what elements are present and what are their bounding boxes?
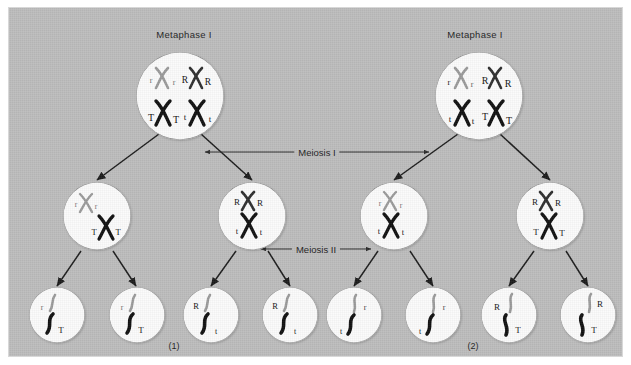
- meiosis-i-product-2: R R t t: [218, 182, 286, 250]
- gamete-cell: r t: [326, 287, 382, 343]
- chromosome-pair-TT-dark: [489, 101, 503, 125]
- chromosome-single: [183, 287, 239, 343]
- chromosome-dark: [348, 315, 354, 334]
- allele-label: T: [482, 111, 488, 122]
- allele-label: r: [448, 77, 451, 87]
- chromosome-single: [262, 287, 318, 343]
- allele-label: R: [494, 302, 500, 312]
- metaphase-i-label-left: Metaphase I: [156, 29, 212, 40]
- allele-label: R: [234, 197, 240, 207]
- gamete-cell: R t: [183, 287, 239, 343]
- chromosome-group: [63, 182, 131, 250]
- chromosome-light: [205, 295, 210, 311]
- chromosome-group: [360, 182, 428, 250]
- allele-label: T: [533, 227, 539, 237]
- allele-label: r: [173, 78, 176, 87]
- chromosome-light: [130, 295, 135, 311]
- allele-label: R: [482, 75, 489, 86]
- chromosome-pair-TT-dark: [99, 216, 113, 239]
- chromosome-group: [516, 182, 584, 250]
- allele-label: T: [148, 112, 154, 123]
- allele-label: r: [364, 303, 367, 312]
- gamete-cell: R T: [560, 287, 616, 343]
- chromosome-single: [481, 287, 537, 343]
- allele-label: R: [272, 301, 278, 311]
- chromosome-dark: [427, 315, 433, 334]
- allele-label: t: [378, 226, 380, 236]
- allele-label: t: [260, 227, 262, 237]
- allele-label: r: [400, 201, 403, 210]
- allele-label: r: [41, 303, 44, 312]
- meiosis-i-product-4: R R T T: [516, 182, 584, 250]
- allele-label: t: [294, 327, 296, 336]
- chromosome-pair-tt-dark: [455, 101, 469, 125]
- metaphase-cell-1: r r R R T T t t: [136, 52, 224, 140]
- allele-label: t: [472, 116, 475, 126]
- chromosome-pair-RR-dark: [190, 68, 202, 88]
- allele-label: r: [379, 199, 382, 208]
- chromosome-dark: [504, 315, 507, 335]
- figure-stage: Metaphase I Metaphase I: [0, 0, 631, 365]
- chromosome-pair-RR-dark: [489, 68, 501, 88]
- allele-label: T: [591, 325, 597, 335]
- allele-label: T: [115, 227, 120, 237]
- chromosome-dark: [580, 315, 583, 335]
- chromosome-pair-rr-light: [455, 68, 467, 88]
- allele-label: R: [205, 77, 211, 87]
- group-label-2: (2): [468, 341, 479, 351]
- allele-label: T: [559, 228, 565, 238]
- chromosome-light: [284, 295, 289, 311]
- chromosome-pair-TT-dark: [156, 101, 170, 125]
- allele-label: t: [449, 114, 452, 124]
- allele-label: r: [150, 76, 153, 85]
- allele-label: T: [515, 325, 521, 335]
- gamete-cell: r T: [109, 287, 165, 343]
- chromosome-light: [510, 294, 512, 312]
- meiosis-ii-label: Meiosis II: [292, 244, 340, 255]
- allele-label: R: [193, 301, 199, 311]
- allele-label: R: [505, 78, 512, 89]
- chromosome-light: [589, 294, 591, 312]
- chromosome-pair-tt-dark: [190, 101, 204, 125]
- chromosome-pair-rr-light: [80, 194, 92, 212]
- allele-label: T: [58, 325, 64, 335]
- allele-label: t: [402, 227, 404, 237]
- meiosis-i-label: Meiosis I: [294, 147, 339, 158]
- allele-label: T: [506, 115, 512, 126]
- meiosis-i-product-1: r r T T: [63, 182, 131, 250]
- allele-label: R: [597, 299, 603, 309]
- chromosome-pair-RR-dark: [540, 192, 552, 210]
- allele-label: t: [209, 114, 212, 124]
- chromosome-pair-rr-light: [384, 192, 396, 210]
- chromosome-single: [326, 287, 382, 343]
- chromosome-group-metaphase-2: [435, 52, 523, 140]
- allele-label: R: [257, 198, 263, 208]
- gamete-cell: R T: [481, 287, 537, 343]
- chromosome-pair-tt-dark: [384, 214, 398, 237]
- allele-label: t: [419, 327, 421, 336]
- chromosome-dark: [202, 314, 208, 333]
- allele-label: r: [95, 202, 98, 211]
- chromosome-single: [405, 287, 461, 343]
- metaphase-cell-2: r r R R t t T T: [435, 52, 523, 140]
- chromosome-single: [29, 287, 85, 343]
- allele-label: t: [184, 112, 187, 122]
- chromosome-light: [354, 295, 356, 312]
- allele-label: t: [215, 327, 217, 336]
- chromosome-single: [109, 287, 165, 343]
- chromosome-dark: [281, 314, 287, 333]
- chromosome-pair-TT-dark: [542, 214, 556, 238]
- allele-label: T: [138, 325, 144, 335]
- gamete-cell: R t: [262, 287, 318, 343]
- meiosis-i-product-3: r r t t: [360, 182, 428, 250]
- allele-label: R: [532, 197, 538, 207]
- group-label-1: (1): [169, 341, 180, 351]
- allele-label: t: [236, 226, 238, 236]
- chromosome-single: [560, 287, 616, 343]
- allele-label: R: [182, 75, 188, 85]
- chromosome-light: [433, 295, 435, 312]
- allele-label: r: [471, 80, 474, 89]
- allele-label: r: [443, 303, 446, 312]
- allele-label: T: [91, 227, 96, 237]
- metaphase-i-label-right: Metaphase I: [447, 29, 503, 40]
